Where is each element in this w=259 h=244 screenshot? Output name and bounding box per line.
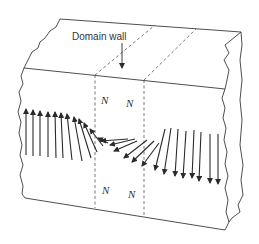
magnetization-arrow [61,113,63,158]
magnetization-arrow [192,130,194,178]
magnetization-arrow [183,131,186,178]
domain-wall-boundaries [95,25,196,216]
pole-label-n: N [125,97,134,109]
block-right-face [224,32,243,222]
magnetization-arrow [124,140,147,158]
magnetization-arrow [67,114,72,160]
magnetization-arrows [26,109,218,184]
block-front-face [18,68,229,230]
domain-wall-label: Domain wall [72,31,126,42]
magnetization-arrow [132,141,154,162]
magnetization-arrow [155,129,165,170]
pole-label-n: N [101,184,110,196]
magnetization-arrow [199,132,201,181]
magnetization-arrow [101,139,128,141]
pole-label-n: N [100,94,109,106]
pole-labels: N N N N [100,94,136,200]
magnetization-arrow [90,129,103,146]
magnetization-arrow [55,112,56,158]
magnetization-arrow [175,129,178,176]
domain-wall-diagram: Domain wall N N N N [0,0,259,244]
block-top-face [24,19,241,89]
magnetization-arrow [114,141,137,151]
magnetization-arrow [164,128,171,174]
pole-label-n: N [127,188,136,200]
